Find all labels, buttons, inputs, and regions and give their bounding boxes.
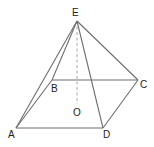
label-E: E [72,7,79,18]
label-B: B [51,83,58,94]
edge-EB [52,21,77,80]
edge-ED [77,21,103,128]
edge-EA [16,21,77,128]
label-A: A [8,129,15,140]
edge-EC [77,21,138,80]
label-O: O [73,107,81,118]
edge-CD [103,80,138,128]
label-C: C [140,79,147,90]
edge-AB [16,80,52,128]
pyramid-diagram: E B C O A D [0,0,154,147]
label-D: D [103,129,110,140]
